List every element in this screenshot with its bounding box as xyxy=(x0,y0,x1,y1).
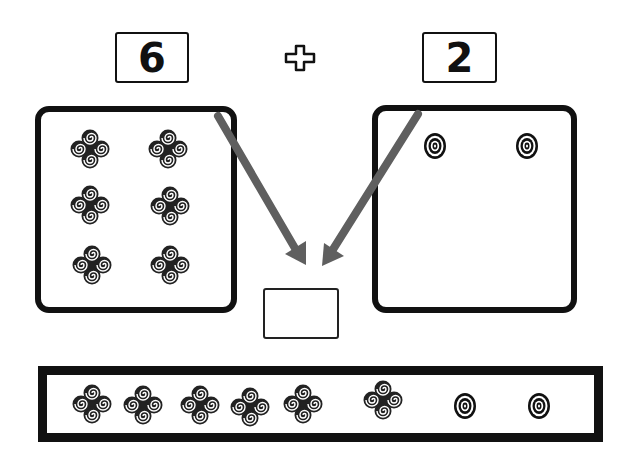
arrows-layer xyxy=(0,0,627,467)
arrow-a-to-answer xyxy=(218,116,306,265)
arrow-b-to-answer xyxy=(322,114,418,266)
